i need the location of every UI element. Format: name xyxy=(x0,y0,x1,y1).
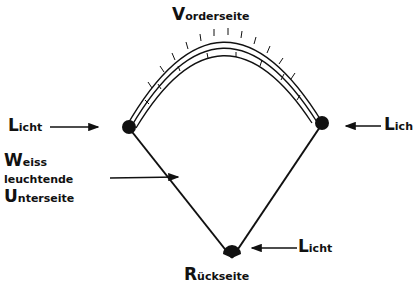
diagram-canvas: Vorderseite Licht Lich Weiss leuchtende … xyxy=(0,0,417,284)
label-underside-1: Weiss xyxy=(4,152,47,169)
arch-diagram-graphic xyxy=(0,0,417,284)
label-light-left: Licht xyxy=(8,117,42,134)
label-light-right: Lich xyxy=(384,116,413,133)
light-source-left-icon xyxy=(122,120,136,134)
label-underside-2: leuchtende xyxy=(4,174,73,185)
brick-arch xyxy=(126,28,322,128)
arrow-underside xyxy=(110,177,178,178)
underside-v-lines xyxy=(129,124,322,258)
label-back: Rückseite xyxy=(184,266,249,283)
label-front: Vorderseite xyxy=(172,6,249,23)
label-underside-3: Unterseite xyxy=(4,188,74,205)
light-source-right-icon xyxy=(315,116,329,130)
label-light-bottom: Licht xyxy=(298,238,332,255)
